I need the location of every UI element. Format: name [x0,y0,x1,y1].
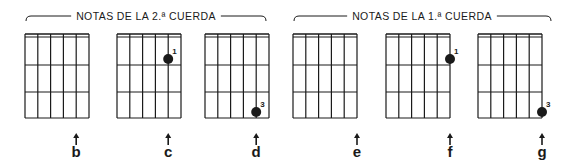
fretboard-diagram-g: 3g [478,34,551,160]
group-headers: NOTAS DE LA 2.ª CUERDANOTAS DE LA 1.ª CU… [26,10,551,22]
group-title: NOTAS DE LA 2.ª CUERDA [76,10,216,22]
fretboard-diagrams: b1c3de1f3g [25,34,551,160]
finger-number: 1 [172,47,177,56]
bracket-left [26,16,71,21]
note-label: c [164,143,172,160]
bracket-left [294,16,347,21]
up-arrow-icon [73,133,79,138]
bracket-right [497,16,551,21]
note-label: e [353,143,361,160]
fretboard-diagram-e: e [293,34,361,160]
group-title: NOTAS DE LA 1.ª CUERDA [352,10,492,22]
fretboard-notes-diagram: NOTAS DE LA 2.ª CUERDANOTAS DE LA 1.ª CU… [0,0,573,163]
up-arrow-icon [165,133,171,138]
up-arrow-icon [447,133,453,138]
group-header: NOTAS DE LA 2.ª CUERDA [26,10,266,22]
up-arrow-icon [354,133,360,138]
up-arrow-icon [253,133,259,138]
note-label: d [252,143,261,160]
fretboard-diagram-d: 3d [205,34,269,160]
group-header: NOTAS DE LA 1.ª CUERDA [294,10,551,22]
fretboard-diagram-b: b [25,34,89,160]
note-label: f [448,143,454,160]
finger-number: 1 [454,47,459,56]
note-label: b [72,143,81,160]
finger-number: 3 [260,100,265,109]
finger-number: 3 [546,100,551,109]
up-arrow-icon [539,133,545,138]
fretboard-diagram-f: 1f [386,34,459,160]
fretboard-diagram-c: 1c [117,34,181,160]
note-label: g [537,143,546,160]
bracket-right [221,16,266,21]
